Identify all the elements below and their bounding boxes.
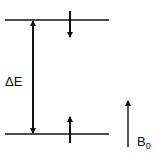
energy-gap-label: ΔE <box>5 74 23 89</box>
magnetic-field-label: B0 <box>137 134 151 151</box>
field-label-subscript: 0 <box>146 141 151 151</box>
field-label-main: B <box>137 134 146 149</box>
energy-level-diagram: ΔE B0 <box>0 0 158 159</box>
